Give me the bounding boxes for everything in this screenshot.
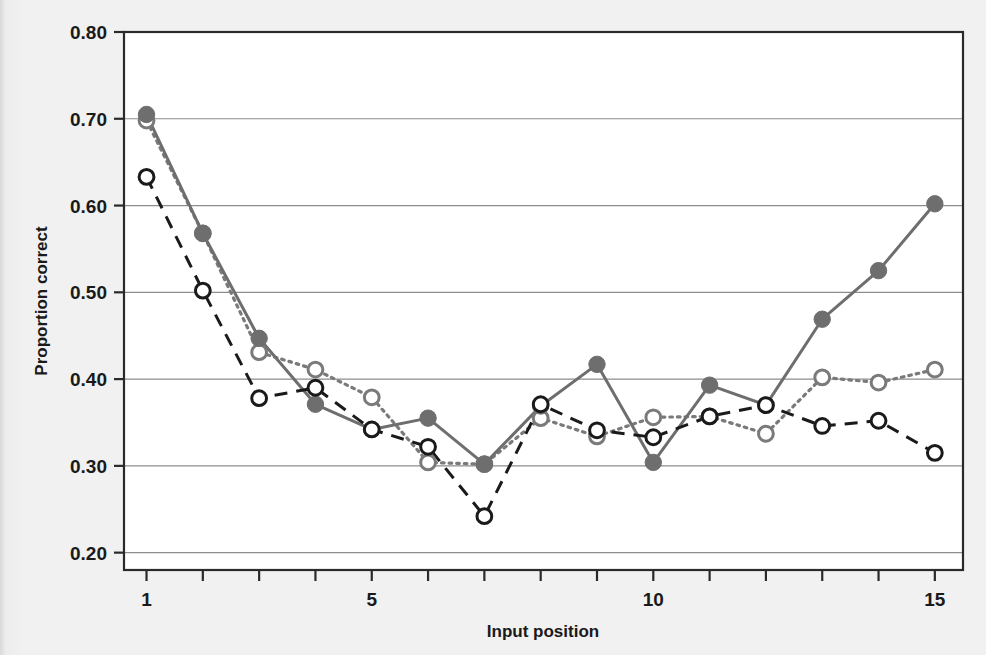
data-point	[871, 375, 886, 390]
y-axis-title: Proportion correct	[32, 226, 51, 376]
data-point	[814, 311, 830, 327]
data-point	[195, 225, 211, 241]
data-point	[476, 456, 492, 472]
x-axis-ticks	[147, 570, 935, 581]
data-point	[364, 390, 379, 405]
data-point	[815, 419, 830, 434]
data-point	[871, 413, 886, 428]
y-tick-label: 0.20	[70, 543, 107, 564]
x-tick-label: 1	[141, 589, 152, 610]
y-tick-label: 0.50	[70, 282, 107, 303]
x-axis-tick-labels: 151015	[141, 589, 946, 610]
data-point	[533, 397, 548, 412]
data-point	[308, 380, 323, 395]
data-point	[421, 439, 436, 454]
plot-area-background	[124, 32, 963, 570]
y-axis-ticks	[114, 32, 124, 553]
data-point	[927, 362, 942, 377]
y-tick-label: 0.30	[70, 456, 107, 477]
data-point	[590, 423, 605, 438]
y-tick-label: 0.40	[70, 369, 107, 390]
x-tick-label: 10	[643, 589, 664, 610]
data-point	[645, 454, 661, 470]
data-point	[420, 410, 436, 426]
data-point	[815, 370, 830, 385]
data-point	[870, 262, 886, 278]
data-point	[702, 409, 717, 424]
x-tick-label: 5	[366, 589, 377, 610]
data-point	[421, 455, 436, 470]
y-tick-label: 0.80	[70, 22, 107, 43]
data-point	[646, 430, 661, 445]
data-point	[195, 283, 210, 298]
data-point	[138, 106, 154, 122]
data-point	[477, 509, 492, 524]
y-tick-label: 0.60	[70, 196, 107, 217]
data-point	[927, 196, 943, 212]
data-point	[252, 345, 267, 360]
data-point	[701, 377, 717, 393]
data-point	[139, 170, 154, 185]
x-tick-label: 15	[924, 589, 946, 610]
data-point	[307, 396, 323, 412]
data-point	[646, 410, 661, 425]
y-tick-label: 0.70	[70, 109, 107, 130]
y-axis-tick-labels: 0.200.300.400.500.600.700.80	[70, 22, 107, 564]
data-point	[364, 422, 379, 437]
data-point	[759, 426, 774, 441]
data-point	[251, 330, 267, 346]
data-point	[252, 391, 267, 406]
data-point	[589, 356, 605, 372]
line-chart: 0.200.300.400.500.600.700.80 151015 Inpu…	[0, 0, 986, 655]
data-point	[308, 362, 323, 377]
figure-container: 0.200.300.400.500.600.700.80 151015 Inpu…	[0, 0, 986, 655]
data-point	[759, 398, 774, 413]
data-point	[927, 445, 942, 460]
x-axis-title: Input position	[487, 622, 599, 641]
